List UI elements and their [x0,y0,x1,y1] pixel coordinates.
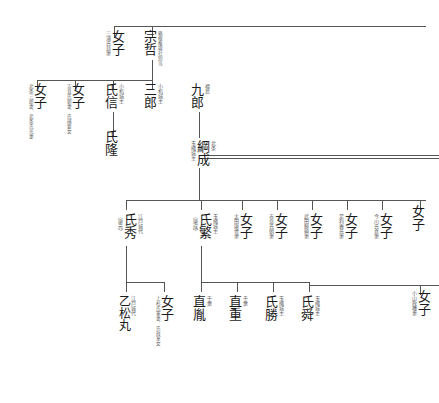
person-note-right: 玉縄城主 [278,295,284,316]
person-note-right: 江戸城代 [136,213,142,234]
person-node-p_joshi_4[interactable]: 女子太田康資妻 [233,213,252,239]
person-note-right: 北条 [209,140,215,151]
connector-drop-j5 [277,200,278,210]
connector-sibling-bar-gen1 [114,26,426,27]
person-node-p_ujishun[interactable]: 氏舜玉縄城主 [300,295,319,321]
person-node-p_ujikatsu[interactable]: 氏勝玉縄城主 [264,295,283,321]
person-node-p_joshi_2[interactable]: 女子吉良氏朝妻、氏捕要女 [66,83,85,134]
connector-stem-kuro-down [199,112,200,138]
connector-stem-otomatsu-left [126,282,127,292]
person-name: 女子 [411,205,425,231]
connector-bar-otomatsu-joshi [126,282,164,283]
person-note-right: 小机城主 [157,83,163,104]
person-node-p_ujinobu[interactable]: 氏信小机城主 [104,83,123,109]
person-name: 九郎 [190,83,204,109]
person-note-right: 玉縄城主 [314,295,320,316]
person-node-p_ujishige[interactable]: 氏繁玉縄城主（康成） [192,213,217,239]
connector-drop-ujishige [201,200,202,210]
connector-drop-naotane [201,282,202,292]
person-note-right: 江戸城代 [129,295,135,316]
connector-bar-tsunashige-right2 [199,158,439,159]
person-node-p_tsunashige[interactable]: 綱成北条玉縄城主 [190,140,215,166]
person-node-p_joshi_7[interactable]: 女子足利義氏妻 [338,213,357,239]
connector-sibling-bar-gen3 [126,200,426,201]
person-name: 氏信 [104,83,118,109]
connector-stem-ujishige-down [201,246,202,282]
person-name: 三郎 [143,83,157,109]
person-name: 直胤 [192,295,206,321]
person-name: 女子 [160,295,174,321]
person-name: 氏勝 [264,295,278,321]
person-note-right: 千葉 [242,295,248,306]
person-name: 氏秀 [123,213,137,239]
person-name: 女子 [71,83,85,109]
person-node-p_ujihide[interactable]: 氏秀江戸城代（康元） [117,213,142,239]
person-note-right: 小机城主 [118,83,124,104]
person-name: 直重 [228,295,242,321]
person-note-right: 玉縄城主 [211,213,217,234]
person-node-p_joshi_1[interactable]: 女子三浦氏員妻 [105,30,124,56]
person-name: 女子 [379,213,393,239]
person-node-p_kuro[interactable]: 九郎福島 [190,83,209,109]
person-note-right: 箱根権現社別当 [157,30,162,66]
person-node-p_joshi_6[interactable]: 女子武田勝頼妻 [303,213,322,239]
person-node-p_joshi_9[interactable]: 女子 [411,205,425,231]
connector-stem-tsunashige-down [199,168,200,200]
person-name: 宗哲 [143,30,157,56]
person-name: 女子 [417,290,431,316]
connector-drop-j8 [382,200,383,210]
person-name: 女子 [111,30,125,56]
person-node-p_naoshige[interactable]: 直重千葉 [228,295,247,321]
person-name: 女子 [344,213,358,239]
person-node-p_sotetsu[interactable]: 宗哲箱根権現社別当 [143,30,162,66]
connector-sibling-bar-gen4 [201,282,309,283]
person-node-p_joshi_8[interactable]: 女子今川氏真妻 [373,213,392,239]
person-node-p_ujitaka[interactable]: 氏隆 [104,130,118,156]
person-node-p_saburo[interactable]: 三郎小机城主 [143,83,162,109]
person-node-p_joshi_10[interactable]: 女子上杉氏憲妻、氏政室女 [155,295,174,346]
connector-drop-naoshige [237,282,238,292]
person-name: 女子 [274,213,288,239]
person-name: 女子 [239,213,253,239]
person-name: 氏舜 [300,295,314,321]
person-node-p_otomatsu[interactable]: 乙松丸江戸城代 [117,295,135,331]
person-name: 氏隆 [104,130,118,156]
connector-drop-j4 [242,200,243,210]
person-name: 女子 [309,213,323,239]
person-note-right: 福島 [204,83,210,94]
connector-drop-joshi10 [164,282,165,292]
genealogy-chart: 宗哲箱根権現社別当女子三浦氏員妻三郎小机城主氏信小机城主女子吉良氏朝妻、氏捕要女… [0,0,439,403]
connector-drop-ujihide [126,200,127,210]
person-name: 女子 [33,83,47,109]
person-node-p_joshi_5[interactable]: 女子吉良氏朝妻 [268,213,287,239]
person-name: 乙松丸 [117,295,129,331]
person-node-p_naotane[interactable]: 直胤千葉 [192,295,211,321]
person-name: 氏繁 [198,213,212,239]
person-name: 綱成 [196,140,210,166]
connector-sibling-bar-gen2 [37,80,153,81]
connector-drop-j7 [347,200,348,210]
person-note-right: 千葉 [206,295,212,306]
connector-bar-tsunashige-right [199,155,439,156]
person-node-p_joshi_3[interactable]: 女子北条三郎妻、北条氏光妻 [28,83,47,139]
connector-drop-ujishun [309,282,310,292]
person-node-p_joshi_11[interactable]: 女子小山政種妻 [411,290,430,316]
connector-drop-ujikatsu [273,282,274,292]
connector-drop-j6 [312,200,313,210]
